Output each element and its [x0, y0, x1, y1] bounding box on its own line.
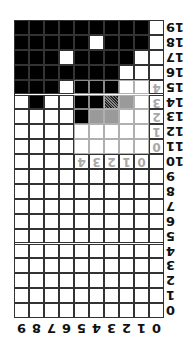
column-label: 5	[74, 321, 89, 335]
grid-cell	[14, 95, 29, 110]
grid-cell	[14, 214, 29, 229]
grid-cell	[119, 95, 134, 110]
grid-cell	[74, 50, 89, 65]
grid-cell	[74, 229, 89, 244]
grid-cell	[29, 184, 44, 199]
grid-cell	[74, 214, 89, 229]
grid-cell	[104, 229, 119, 244]
grid-cell	[59, 154, 74, 169]
grid-cell	[134, 184, 149, 199]
grid-cell	[29, 124, 44, 139]
grid-cell	[44, 139, 59, 154]
grid-cell	[29, 214, 44, 229]
grid-cell	[149, 169, 164, 184]
grid-cell	[44, 199, 59, 214]
grid-cell	[134, 214, 149, 229]
grid-cell	[59, 20, 74, 35]
grid-cell	[59, 109, 74, 124]
grid-cell	[74, 124, 89, 139]
grid-cell	[89, 95, 104, 110]
grid-cell	[44, 95, 59, 110]
grid-cell	[74, 35, 89, 50]
grid-cell	[74, 244, 89, 259]
grid-cell	[14, 20, 29, 35]
grid-cell	[29, 303, 44, 318]
grid-cell	[149, 184, 164, 199]
grid-cell	[89, 65, 104, 80]
grid-cell	[134, 109, 149, 124]
grid-cell	[29, 288, 44, 303]
grid-cell	[119, 50, 134, 65]
grid-cell	[14, 184, 29, 199]
grid-cell	[104, 303, 119, 318]
grid-cell	[149, 273, 164, 288]
row-label: 15	[166, 80, 192, 95]
grid-cell	[29, 109, 44, 124]
grid-cell	[74, 273, 89, 288]
row-label: 1	[166, 288, 192, 303]
column-label: 0	[149, 321, 164, 335]
grid-cell	[89, 258, 104, 273]
row-label: 9	[166, 169, 192, 184]
column-label: 7	[44, 321, 59, 335]
grid-cell	[59, 95, 74, 110]
row-label: 8	[166, 184, 192, 199]
grid-cell	[104, 244, 119, 259]
preview-col-label: 0	[134, 154, 149, 169]
grid-cell	[14, 80, 29, 95]
row-label: 19	[166, 20, 192, 35]
column-label: 3	[104, 321, 119, 335]
grid-cell	[44, 303, 59, 318]
grid-cell	[59, 288, 74, 303]
grid-cell	[119, 139, 134, 154]
grid-cell	[104, 124, 119, 139]
grid-cell	[59, 139, 74, 154]
grid-cell	[119, 65, 134, 80]
grid-cell	[14, 139, 29, 154]
grid-cell	[59, 65, 74, 80]
grid-cell	[59, 169, 74, 184]
grid-cell	[134, 229, 149, 244]
grid-cell	[134, 35, 149, 50]
grid-cell	[74, 80, 89, 95]
preview-row-label: 0	[149, 139, 164, 154]
column-label: 2	[119, 321, 134, 335]
grid-cell	[29, 50, 44, 65]
column-label: 9	[14, 321, 29, 335]
grid-cell	[59, 124, 74, 139]
grid-cell	[44, 124, 59, 139]
grid-cell	[119, 124, 134, 139]
grid-cell	[89, 169, 104, 184]
grid-cell	[29, 20, 44, 35]
grid-cell	[119, 273, 134, 288]
grid-cell	[74, 199, 89, 214]
grid-cell	[29, 35, 44, 50]
grid-cell	[134, 95, 149, 110]
grid-cell	[29, 244, 44, 259]
grid-cell	[59, 80, 74, 95]
grid-cell	[89, 184, 104, 199]
grid-cell	[104, 139, 119, 154]
tetris-grid[interactable]	[14, 20, 164, 318]
preview-col-label: 1	[119, 154, 134, 169]
grid-cell	[44, 65, 59, 80]
grid-cell	[119, 303, 134, 318]
grid-cell	[74, 184, 89, 199]
grid-cell	[44, 258, 59, 273]
grid-cell	[134, 20, 149, 35]
grid-cell	[74, 258, 89, 273]
grid-cell	[14, 273, 29, 288]
grid-cell	[149, 50, 164, 65]
grid-cell	[14, 244, 29, 259]
grid-cell	[149, 244, 164, 259]
grid-cell	[14, 65, 29, 80]
row-label: 5	[166, 229, 192, 244]
preview-col-label: 2	[104, 154, 119, 169]
grid-cell	[134, 199, 149, 214]
grid-cell	[14, 199, 29, 214]
grid-cell	[44, 184, 59, 199]
grid-cell	[149, 65, 164, 80]
grid-cell	[44, 169, 59, 184]
row-label: 10	[166, 154, 192, 169]
grid-cell	[104, 20, 119, 35]
